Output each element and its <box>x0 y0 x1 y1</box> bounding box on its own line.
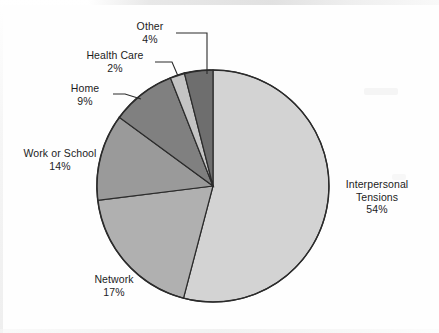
pie-label-home: Home 9% <box>60 82 110 107</box>
pie-label-other-value: 4% <box>121 33 179 46</box>
pie-label-work-or-school-value: 14% <box>12 160 108 173</box>
pie-label-work-or-school-name: Work or School <box>12 147 108 160</box>
pie-label-network-value: 17% <box>83 286 145 299</box>
pie-label-interpersonal-tensions-line2: Tensions <box>336 191 418 204</box>
pie-label-work-or-school: Work or School 14% <box>12 147 108 172</box>
pie-label-health-care: Health Care 2% <box>78 49 152 74</box>
pie-label-home-value: 9% <box>60 95 110 108</box>
pie-label-interpersonal-tensions-line1: Interpersonal <box>336 178 418 191</box>
leader-line-health-care <box>155 62 178 76</box>
pie-label-health-care-name: Health Care <box>78 49 152 62</box>
pie-label-network-name: Network <box>83 273 145 286</box>
leader-line-other <box>176 33 207 74</box>
pie-label-other: Other 4% <box>121 20 179 45</box>
leader-line-home <box>113 94 141 99</box>
pie-label-interpersonal-tensions-value: 54% <box>336 203 418 216</box>
pie-chart-figure: Other 4% Health Care 2% Home 9% Work or … <box>0 0 439 333</box>
pie-label-network: Network 17% <box>83 273 145 298</box>
pie-label-home-name: Home <box>60 82 110 95</box>
pie-label-interpersonal-tensions: Interpersonal Tensions 54% <box>336 178 418 216</box>
pie-label-health-care-value: 2% <box>78 62 152 75</box>
pie-label-other-name: Other <box>121 20 179 33</box>
